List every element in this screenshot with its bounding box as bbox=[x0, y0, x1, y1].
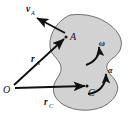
angular-acceleration-label: α bbox=[108, 66, 113, 75]
vector-label-r-a-subscript: A bbox=[35, 59, 40, 66]
vector-label-v-a: v A bbox=[26, 4, 35, 16]
vector-label-r-c-symbol: r bbox=[44, 97, 48, 107]
vector-label-r-c: r C bbox=[44, 97, 54, 109]
rigid-body-shape bbox=[50, 14, 122, 110]
point-label-a: A bbox=[69, 31, 77, 42]
vector-label-r-a: r A bbox=[31, 54, 40, 66]
vector-label-v-a-subscript: A bbox=[30, 9, 35, 16]
point-label-o: O bbox=[3, 84, 10, 95]
rigid-body-kinematics-figure: A C O r A r C v A ω α bbox=[0, 0, 133, 117]
angular-velocity-label: ω bbox=[99, 39, 105, 48]
vector-label-r-a-symbol: r bbox=[31, 54, 35, 64]
point-label-c: C bbox=[88, 87, 95, 98]
point-marker-a bbox=[65, 36, 68, 39]
vector-label-r-c-subscript: C bbox=[49, 102, 54, 109]
